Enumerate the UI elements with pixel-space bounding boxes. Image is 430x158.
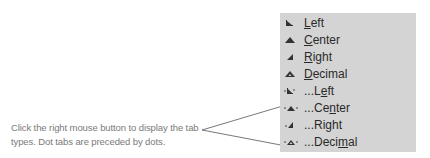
menu-item-label: Left (302, 16, 324, 30)
left-tab-icon (280, 15, 302, 31)
right-tab-icon (280, 49, 302, 65)
menu-item-label: ...Decimal (302, 135, 357, 149)
menu-item-dot-right[interactable]: ...Right (280, 117, 416, 133)
dot-decimal-tab-icon (280, 134, 302, 150)
menu-item-center[interactable]: Center (280, 32, 416, 48)
dot-right-tab-icon (280, 117, 302, 133)
menu-item-right[interactable]: Right (280, 49, 416, 65)
center-tab-icon (280, 32, 302, 48)
menu-item-label: ...Right (302, 118, 342, 132)
tab-type-context-menu: Left Center Right Decimal ...Left ...Cen… (280, 13, 416, 152)
menu-item-dot-center[interactable]: ...Center (280, 100, 416, 116)
dot-left-tab-icon (280, 83, 302, 99)
menu-item-dot-left[interactable]: ...Left (280, 83, 416, 99)
menu-item-label: ...Center (302, 101, 350, 115)
menu-item-label: Right (302, 50, 332, 64)
decimal-tab-icon (280, 66, 302, 82)
menu-item-left[interactable]: Left (280, 15, 416, 31)
menu-item-label: Center (302, 33, 340, 47)
menu-item-label: ...Left (302, 84, 334, 98)
menu-item-label: Decimal (302, 67, 347, 81)
dot-center-tab-icon (280, 100, 302, 116)
menu-item-decimal[interactable]: Decimal (280, 66, 416, 82)
menu-item-dot-decimal[interactable]: ...Decimal (280, 134, 416, 150)
